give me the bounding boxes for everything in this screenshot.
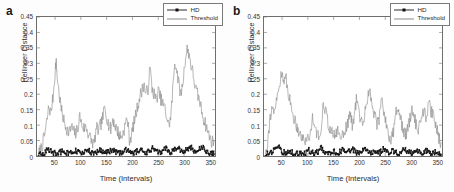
y-tick-b-6: 0.3: [251, 60, 263, 67]
x-tick-b-6: 350: [432, 159, 443, 166]
legend-label-hd-b: HD: [417, 6, 426, 14]
x-tick-b-2: 150: [328, 159, 339, 166]
legend-item-threshold-b: Threshold: [394, 14, 445, 22]
legend-label-hd-a: HD: [190, 6, 199, 14]
x-tick-a-5: 300: [179, 159, 190, 166]
y-tick-a-3: 0.15: [21, 107, 36, 114]
x-tick-b-0: 50: [278, 159, 285, 166]
plot-svg-b: [264, 17, 442, 156]
legend-item-hd-b: HD: [394, 6, 445, 14]
y-tick-b-5: 0.25: [248, 75, 263, 82]
x-tick-b-4: 250: [380, 159, 391, 166]
legend-b: HD Threshold: [390, 3, 450, 26]
y-tick-b-8: 0.4: [251, 28, 263, 35]
panel-a: a Hellinger Distance Time (Intervals) 0 …: [0, 0, 227, 192]
panel-label-a: a: [6, 4, 13, 18]
x-axis-label-a: Time (Intervals): [36, 174, 216, 183]
y-tick-a-2: 0.1: [24, 122, 36, 129]
threshold-line-icon: [167, 15, 187, 22]
panel-b: b Hellinger Distance Time (Intervals) 0 …: [227, 0, 454, 192]
y-tick-b-7: 0.35: [248, 44, 263, 51]
y-tick-b-9: 0.45: [248, 13, 263, 20]
y-tick-a-8: 0.4: [24, 28, 36, 35]
x-tick-b-1: 100: [302, 159, 313, 166]
legend-a: HD Threshold: [163, 3, 223, 26]
x-tick-a-2: 150: [101, 159, 112, 166]
figure-container: a Hellinger Distance Time (Intervals) 0 …: [0, 0, 454, 192]
x-tick-a-0: 50: [51, 159, 58, 166]
y-tick-b-4: 0.2: [251, 91, 263, 98]
y-tick-a-7: 0.35: [21, 44, 36, 51]
y-tick-a-6: 0.3: [24, 60, 36, 67]
y-tick-b-3: 0.15: [248, 107, 263, 114]
plot-area-b: [263, 16, 443, 157]
y-tick-b-2: 0.1: [251, 122, 263, 129]
y-tick-a-9: 0.45: [21, 13, 36, 20]
y-tick-a-1: 0.05: [21, 138, 36, 145]
hd-line-marker-icon: [167, 7, 187, 14]
x-tick-a-1: 100: [75, 159, 86, 166]
x-tick-b-5: 300: [406, 159, 417, 166]
y-tick-b-1: 0.05: [248, 138, 263, 145]
hd-line-marker-icon: [394, 7, 414, 14]
x-tick-a-6: 350: [205, 159, 216, 166]
y-tick-a-4: 0.2: [24, 91, 36, 98]
y-tick-a-5: 0.25: [21, 75, 36, 82]
x-tick-a-4: 250: [153, 159, 164, 166]
threshold-line-icon: [394, 15, 414, 22]
plot-svg-a: [37, 17, 215, 156]
legend-item-hd-a: HD: [167, 6, 218, 14]
legend-item-threshold-a: Threshold: [167, 14, 218, 22]
plot-area-a: [36, 16, 216, 157]
x-tick-a-3: 200: [127, 159, 138, 166]
x-tick-b-3: 200: [354, 159, 365, 166]
legend-label-threshold-a: Threshold: [190, 14, 218, 22]
legend-label-threshold-b: Threshold: [417, 14, 445, 22]
panel-label-b: b: [233, 4, 240, 18]
x-axis-label-b: Time (Intervals): [263, 174, 443, 183]
